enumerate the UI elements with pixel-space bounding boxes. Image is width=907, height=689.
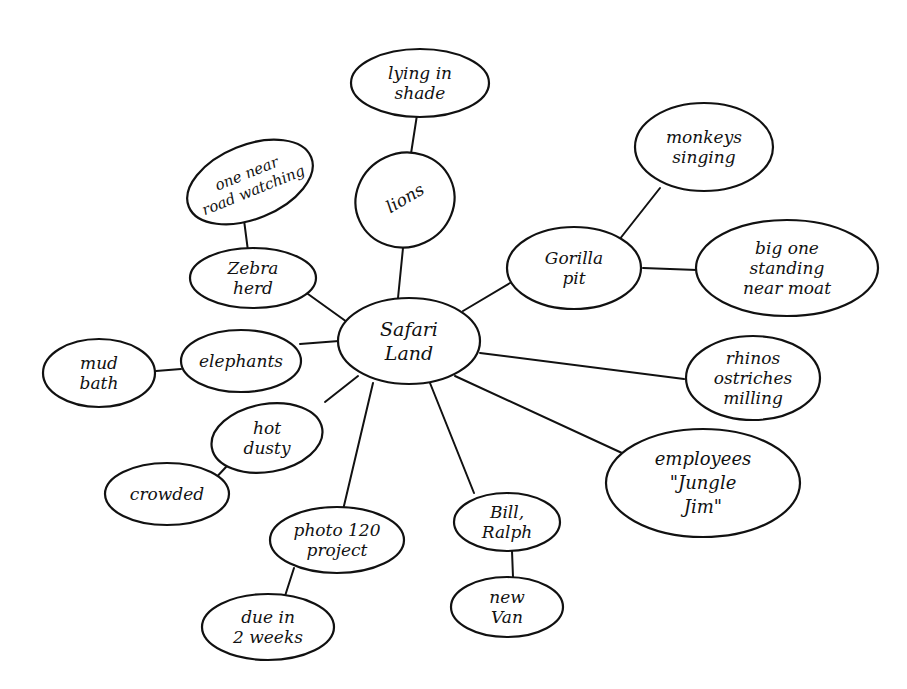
node-shape-lying (351, 49, 489, 117)
node-shape-crowded (105, 463, 229, 525)
node-shape-road (175, 123, 325, 241)
node-shape-employees (606, 429, 800, 537)
cluster-diagram: Safari Land lions lying in shade Zebra h… (0, 0, 907, 689)
edge-center-employees (455, 376, 622, 453)
node-shape-gorilla (507, 227, 641, 309)
edge-center-gorilla (463, 283, 510, 311)
node-shape-monkeys (635, 103, 773, 191)
node-shape-mud (43, 339, 155, 407)
edge-center-lions (398, 248, 403, 298)
edge-center-elephants (300, 341, 339, 344)
node-shape-zebra (190, 248, 316, 308)
node-shape-lions (340, 136, 470, 263)
edge-gorilla-bigone (643, 268, 697, 270)
edge-center-rhinos (480, 353, 684, 379)
edge-center-bill (430, 383, 474, 493)
edge-photo-due (285, 568, 294, 596)
edge-bill-van (512, 551, 513, 577)
edge-center-hot (325, 376, 358, 402)
node-shape-van (451, 577, 563, 637)
edge-center-zebra (308, 294, 347, 322)
edge-elephants-mud (156, 369, 181, 371)
edge-gorilla-monkeys (619, 188, 660, 240)
node-shapes (43, 49, 878, 660)
edge-zebra-road (244, 220, 248, 251)
node-shape-photo (270, 507, 404, 573)
edge-center-photo (343, 383, 373, 510)
node-shape-rhinos (686, 336, 820, 420)
diagram-svg (0, 0, 907, 689)
node-shape-bill (454, 493, 560, 551)
node-shape-center (338, 298, 480, 384)
node-shape-elephants (181, 330, 301, 392)
node-shape-due (202, 594, 334, 660)
node-shape-bigone (696, 220, 878, 316)
